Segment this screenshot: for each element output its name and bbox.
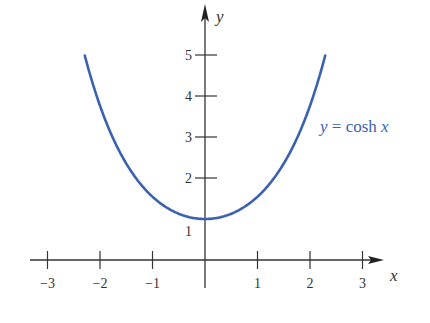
x-tick-label: 3: [359, 276, 366, 291]
x-tick-label: 2: [307, 276, 314, 291]
axes: [30, 4, 384, 288]
curve-label: y = cosh x: [318, 117, 389, 136]
curve-label-x: x: [380, 117, 389, 136]
y-tick-label: 5: [185, 48, 192, 63]
y-tick-label: 2: [185, 171, 192, 186]
chart-container: −3−2−112312345 x y y = cosh x: [0, 0, 430, 323]
x-tick-label: −1: [145, 276, 160, 291]
x-axis-label: x: [389, 266, 398, 285]
curve-label-y: y: [318, 117, 328, 136]
y-tick-label: 4: [185, 89, 192, 104]
cosh-chart: −3−2−112312345 x y y = cosh x: [0, 0, 430, 323]
x-tick-label: 1: [254, 276, 261, 291]
curve-label-mid: = cosh: [328, 117, 382, 136]
y-axis-label: y: [214, 7, 224, 26]
x-tick-label: −3: [40, 276, 55, 291]
y-tick-label: 3: [185, 130, 192, 145]
y-tick-label: 1: [185, 224, 192, 239]
x-tick-label: −2: [93, 276, 108, 291]
